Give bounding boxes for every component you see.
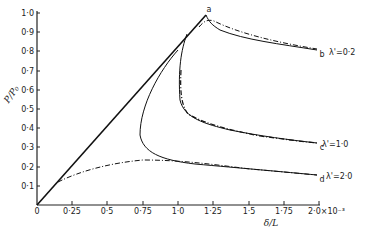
series-linear — [37, 15, 206, 205]
y-tick-label: 0·9 — [21, 28, 34, 37]
point-label-a: a — [207, 5, 212, 14]
series-c-experiment — [181, 70, 317, 143]
y-tick-label: 0·5 — [21, 105, 34, 114]
x-tick-label: 2·0×10⁻³ — [308, 207, 345, 216]
x-tick-label: 1·5 — [243, 207, 256, 216]
x-tick-label: 0·5 — [101, 207, 114, 216]
x-axis-label: δ/L — [264, 218, 278, 228]
x-tick-label: 0·75 — [134, 207, 152, 216]
legend-lambda-0-2: λ'=0·2 — [329, 48, 355, 57]
y-tick-label: 0·1 — [21, 182, 34, 191]
series-c-theory — [179, 34, 317, 143]
y-tick-label: 0·7 — [21, 67, 34, 76]
x-tick-label: 1·25 — [204, 207, 222, 216]
x-tick-label: 0 — [34, 207, 39, 216]
x-tick-label: 1·75 — [275, 207, 293, 216]
legend-lambda-1-0: λ'=1·0 — [322, 140, 348, 149]
x-tick-labels: 0 0·25 0·5 0·75 1·0 1·25 1·5 1·75 2·0×10… — [34, 207, 345, 216]
chart: 0 0·25 0·5 0·75 1·0 1·25 1·5 1·75 2·0×10… — [0, 0, 366, 236]
legend-lambda-2-0: λ'=2·0 — [326, 172, 352, 181]
y-axis-label: P/P₀ — [1, 83, 21, 105]
point-label-b: b — [319, 50, 324, 59]
y-tick-labels: 0·1 0·2 0·3 0·4 0·5 0·6 0·7 0·8 0·9 1·0 — [21, 9, 34, 191]
series-d-theory — [140, 50, 317, 175]
y-tick-label: 0·3 — [21, 143, 34, 152]
series-b-experiment — [199, 20, 317, 49]
series-b-theory — [206, 15, 317, 50]
x-tick-label: 1·0 — [172, 207, 185, 216]
x-tick-label: 0·25 — [63, 207, 81, 216]
y-tick-label: 1·0 — [21, 9, 34, 18]
y-tick-label: 0·4 — [21, 124, 34, 133]
y-tick-label: 0·6 — [21, 86, 34, 95]
y-tick-label: 0·2 — [21, 163, 34, 172]
point-label-d: d — [319, 175, 324, 184]
y-tick-label: 0·8 — [21, 47, 34, 56]
